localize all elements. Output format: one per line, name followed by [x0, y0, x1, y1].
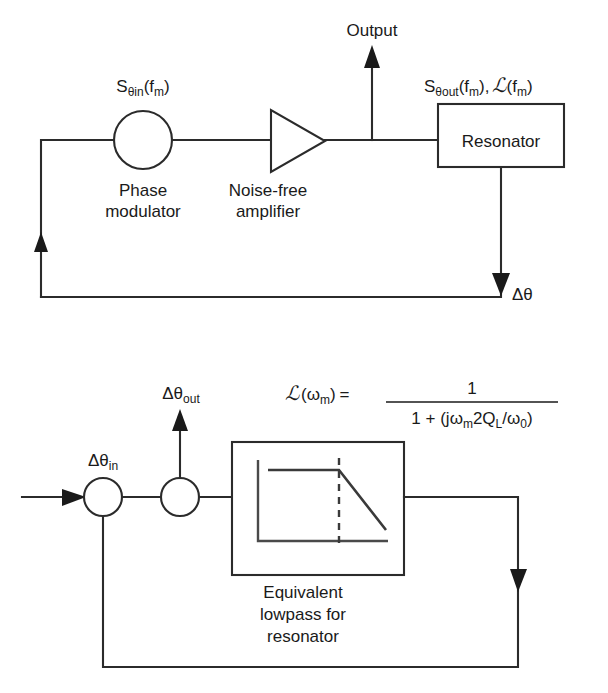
lowpass-label-line3: resonator: [267, 627, 339, 646]
lowpass-label-line1: Equivalent: [263, 583, 343, 602]
resonator-label: Resonator: [462, 132, 541, 151]
output-spectrum-arg-close: ),: [479, 77, 489, 96]
amplifier-triangle: [271, 110, 325, 172]
equation-lhs-arg-open: (ω: [301, 385, 320, 404]
delta-theta-label: Δθ: [512, 285, 533, 304]
equation-lhs-arg-close: ): [330, 385, 336, 404]
feedback-wire-left: [41, 140, 114, 297]
output-spectrum-arg: (f: [459, 77, 470, 96]
equation-denom-part3: /ω: [502, 409, 520, 428]
delta-theta-in-sub: in: [109, 459, 118, 473]
arrow-up-icon-output: [364, 45, 380, 68]
summing-node-icon-1: [84, 478, 122, 516]
equation-script-l: ℒ: [285, 382, 300, 404]
delta-theta-out-label: Δθout: [162, 384, 200, 406]
equation-lhs-arg-sub: m: [320, 393, 330, 407]
equation-denominator: 1 + (jωm2QL/ω0): [411, 409, 532, 431]
output-spectrum-base: S: [424, 77, 435, 96]
arrow-down-icon-bottom-feedback: [510, 569, 527, 592]
phase-modulator-circle: [114, 111, 172, 169]
equation-denom-part1: 1 + (jω: [411, 409, 463, 428]
delta-theta-in-label: Δθin: [88, 451, 118, 473]
summing-node-icon-2: [161, 478, 199, 516]
arrow-up-icon-bottom-output: [172, 409, 188, 431]
input-spectrum-base: S: [116, 77, 127, 96]
arrow-up-icon-feedback: [34, 232, 48, 252]
delta-theta-out-sub: out: [183, 392, 200, 406]
output-spectrum-script-arg: (f: [506, 77, 517, 96]
top-diagram-group: Sθin(fm) Phase modulator Noise-free ampl…: [34, 21, 564, 304]
equation-denom-sub1: m: [463, 417, 473, 431]
delta-theta-base: Δθ: [512, 285, 533, 304]
amplifier-label-line1: Noise-free: [229, 181, 307, 200]
arrow-right-icon-input: [62, 489, 86, 506]
equation-denom-part2: 2Q: [473, 409, 496, 428]
input-spectrum-arg: (f: [144, 77, 155, 96]
delta-theta-out-base: Δθ: [162, 384, 183, 403]
equation-denom-part4: ): [527, 409, 533, 428]
equation-group: ℒ(ωm)= 1 1 + (jωm2QL/ω0): [285, 379, 558, 431]
input-spectrum-arg-close: ): [164, 77, 170, 96]
output-label: Output: [346, 21, 397, 40]
arrow-down-icon-feedback: [492, 273, 510, 296]
equation-equals: =: [340, 385, 350, 404]
output-spectrum-script-arg-sub: m: [517, 85, 527, 99]
input-spectrum-label: Sθin(fm): [116, 77, 169, 99]
output-spectrum-script-arg-close: ): [527, 77, 533, 96]
amplifier-label-line2: amplifier: [236, 202, 301, 221]
input-spectrum-subscript: θin: [128, 85, 144, 99]
diagram-root: Sθin(fm) Phase modulator Noise-free ampl…: [0, 0, 608, 693]
delta-theta-in-base: Δθ: [88, 451, 109, 470]
input-spectrum-arg-sub: m: [154, 85, 164, 99]
output-spectrum-script-l: ℒ: [492, 74, 507, 96]
equation-numerator: 1: [467, 379, 476, 398]
phase-modulator-label-line1: Phase: [119, 181, 167, 200]
output-spectrum-subscript: θout: [435, 85, 459, 99]
lowpass-label-line2: lowpass for: [260, 605, 346, 624]
equation-lhs: ℒ(ωm)=: [285, 382, 350, 407]
output-spectrum-arg-sub: m: [469, 85, 479, 99]
output-spectrum-label: Sθout(fm),ℒ(fm): [424, 74, 533, 99]
phase-noise-block-diagram: Sθin(fm) Phase modulator Noise-free ampl…: [0, 0, 608, 693]
phase-modulator-label-line2: modulator: [105, 202, 181, 221]
